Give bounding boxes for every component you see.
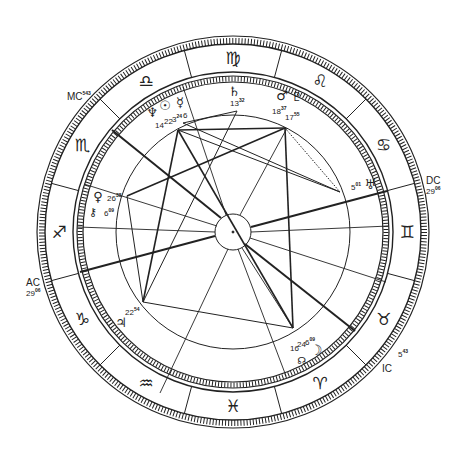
house-cusp: [84, 184, 217, 226]
mercury-degree-2: 6: [183, 111, 188, 120]
aspect-line: [183, 111, 237, 123]
sign-divider: [184, 387, 191, 414]
ac-degree: 2906: [26, 287, 41, 298]
house-cusp: [238, 249, 286, 376]
pluto-icon: ♇: [292, 90, 303, 104]
scorpio-icon: ♏: [75, 135, 90, 155]
libra-icon: ♎: [138, 71, 153, 91]
aspect-line-dotted: [285, 128, 340, 192]
venus-degree: 2638: [107, 192, 122, 203]
taurus-icon: ♉: [376, 309, 391, 329]
moon-icon: ☽: [310, 342, 323, 358]
uranus-degree: 501: [351, 181, 361, 192]
sun-icon: ☉: [159, 98, 171, 113]
ac-axis: [80, 236, 215, 272]
mars-icon: ♂: [276, 88, 288, 103]
sign-divider: [274, 50, 281, 77]
aspect-line: [285, 128, 293, 328]
capricorn-icon: ♑: [75, 309, 90, 329]
sign-divider: [346, 345, 366, 365]
aspect-line: [143, 130, 178, 302]
sagittarius-icon: ♐: [51, 222, 66, 242]
neptune-icon: ♆: [146, 105, 158, 120]
uranus-icon: ♅: [364, 177, 376, 192]
aries-icon: ♈: [312, 373, 327, 393]
center-dot: [232, 231, 234, 233]
gemini-icon: ♊: [399, 222, 414, 242]
ic-label: IC: [382, 363, 392, 374]
horoscope-wheel: ♍♌♋♊♉♈♓♒♑♐♏♎ ♄ 1332 ♂ 1837 ♇ 1755 ♆ ☉ ☿ …: [0, 0, 468, 456]
leo-icon: ♌: [312, 71, 327, 91]
dc-axis: [251, 191, 387, 227]
saturn-degree: 1332: [230, 97, 245, 108]
north-node-icon: ☊: [298, 355, 307, 366]
house-cusp: [78, 227, 215, 232]
venus-icon: ♀: [93, 189, 103, 204]
sign-divider: [51, 273, 78, 280]
sign-divider: [184, 50, 191, 77]
sign-divider: [100, 99, 120, 119]
pluto-degree: 1755: [285, 111, 300, 122]
sign-divider: [100, 345, 120, 365]
jupiter-icon: ♃: [115, 315, 127, 330]
house-cusp: [250, 238, 386, 282]
dc-degree: 2906: [426, 185, 441, 196]
mercury-icon: ☿: [176, 95, 184, 110]
sign-divider: [388, 183, 415, 190]
house-cusp: [251, 226, 389, 232]
chiron-icon: ⚷: [89, 206, 97, 219]
house-cusp: [160, 249, 228, 393]
sign-divider: [388, 273, 415, 280]
sign-divider: [274, 387, 281, 414]
aquarius-icon: ♒: [138, 373, 153, 393]
virgo-icon: ♍: [225, 48, 240, 68]
mercury-degree: 324: [172, 113, 182, 124]
sign-divider: [51, 183, 78, 190]
sign-divider: [346, 99, 366, 119]
jupiter-degree: 2254: [125, 306, 140, 317]
ic-degree: 543: [398, 348, 408, 359]
cancer-icon: ♋: [376, 135, 391, 155]
aspect-line: [143, 302, 293, 328]
house-cusp: [240, 128, 287, 215]
aspect-line: [178, 130, 293, 328]
pisces-icon: ♓: [225, 396, 240, 416]
ic-axis: [245, 244, 355, 331]
chiron-degree: 609: [104, 207, 114, 218]
